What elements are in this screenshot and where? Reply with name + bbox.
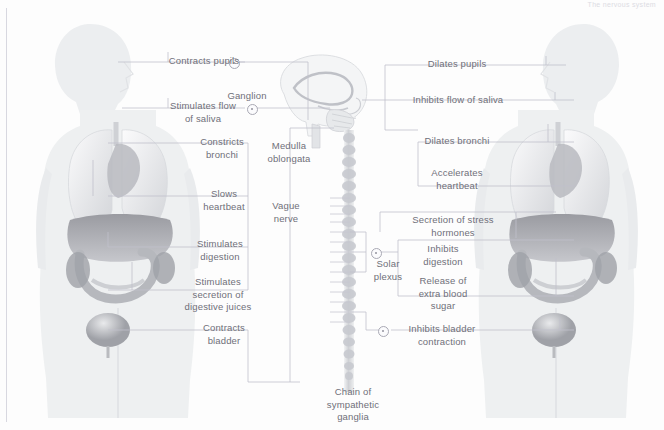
label-digestive-juices: Stimulates secretion of digestive juices — [178, 276, 258, 314]
top-note: The nervous system — [588, 1, 656, 8]
label-blood-sugar: Release of extra blood sugar — [406, 275, 480, 313]
node-pelvic-ganglion — [378, 326, 389, 337]
label-constricts-bronchi: Constricts bronchi — [192, 136, 252, 161]
label-solar-plexus: Solar plexus — [366, 258, 410, 283]
label-accelerates-heartbeat: Accelerates heartbeat — [412, 167, 502, 192]
label-stimulates-digestion: Stimulates digestion — [188, 238, 252, 263]
label-contracts-bladder: Contracts bladder — [196, 322, 252, 347]
node-ganglion-salivary — [247, 104, 258, 115]
figure-parasympathetic — [36, 18, 204, 418]
label-stimulates-saliva: Stimulates flow of saliva — [160, 100, 246, 125]
label-inhibits-digestion: Inhibits digestion — [412, 243, 474, 268]
label-vagus-nerve: Vague nerve — [262, 200, 310, 225]
label-contracts-pupils: Contracts pupils — [163, 55, 245, 68]
label-stress-hormones: Secretion of stress hormones — [396, 214, 510, 239]
label-dilates-pupils: Dilates pupils — [412, 58, 502, 71]
label-dilates-bronchi: Dilates bronchi — [412, 135, 502, 148]
label-slows-heartbeat: Slows heartbeat — [196, 188, 252, 213]
label-ganglion: Ganglion — [214, 90, 280, 103]
autonomic-nervous-system-diagram: The nervous system — [0, 0, 664, 430]
label-inhibits-bladder: Inhibits bladder contraction — [394, 323, 490, 348]
label-medulla-oblongata: Medulla oblongata — [262, 140, 316, 165]
label-sympathetic-chain: Chain of sympathetic ganglia — [315, 386, 391, 424]
sympathetic-chain-illustration — [336, 130, 362, 392]
body-silhouette-left — [36, 18, 204, 418]
label-inhibits-saliva: Inhibits flow of saliva — [398, 94, 518, 107]
